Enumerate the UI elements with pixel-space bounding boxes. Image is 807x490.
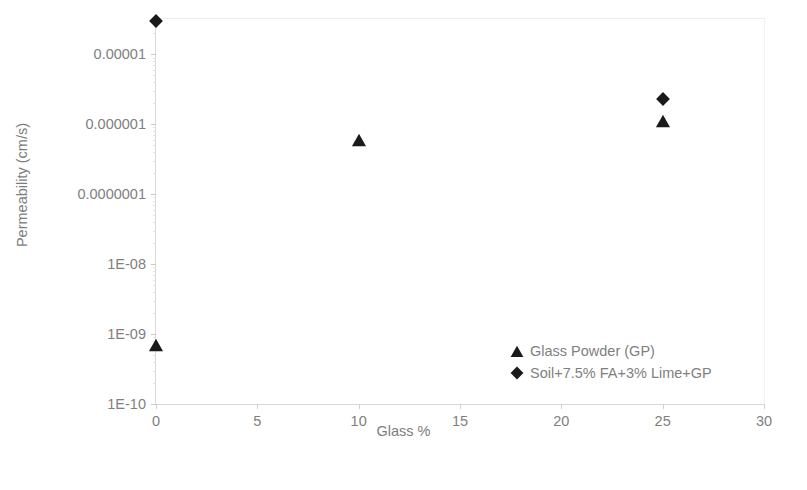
y-axis-minor-tick (153, 65, 156, 66)
y-axis-minor-tick (153, 355, 156, 356)
y-axis-tick-label: 1E-10 (107, 396, 146, 412)
legend-item-label: Soil+7.5% FA+3% Lime+GP (528, 365, 712, 381)
y-axis-minor-tick (153, 271, 156, 272)
y-axis-minor-tick (153, 222, 156, 223)
y-axis-minor-tick (153, 292, 156, 293)
y-axis-minor-tick (153, 231, 156, 232)
legend-item[interactable]: Soil+7.5% FA+3% Lime+GP (510, 362, 712, 384)
diamond-data-point-marker (655, 91, 670, 106)
x-axis-tick-mark (561, 404, 562, 409)
y-axis-minor-tick (153, 140, 156, 141)
y-axis-minor-tick (153, 145, 156, 146)
y-axis-minor-tick (153, 135, 156, 136)
y-axis-tick-mark (151, 124, 156, 125)
y-axis-tick-label: 1E-09 (107, 326, 146, 342)
y-axis-minor-tick (153, 275, 156, 276)
y-axis-minor-tick (153, 201, 156, 202)
y-axis-minor-tick (153, 173, 156, 174)
y-axis-minor-tick (153, 61, 156, 62)
x-axis-tick-mark (156, 404, 157, 409)
y-axis-minor-tick (153, 362, 156, 363)
y-axis-minor-tick (153, 285, 156, 286)
x-axis-tick-mark (460, 404, 461, 409)
y-axis-minor-tick (153, 371, 156, 372)
y-axis-minor-tick (153, 313, 156, 314)
y-axis-minor-tick (153, 205, 156, 206)
y-axis-minor-tick (153, 75, 156, 76)
y-axis-tick-label: 1E-08 (107, 256, 146, 272)
triangle-data-point-marker (655, 114, 670, 128)
y-axis-minor-tick (153, 161, 156, 162)
y-axis-minor-tick (153, 383, 156, 384)
y-axis-minor-tick (153, 267, 156, 268)
x-axis-title: Glass % (0, 423, 807, 439)
triangle-data-point-marker (149, 338, 164, 352)
diamond-marker-icon (510, 366, 528, 380)
chart-legend: Glass Powder (GP)Soil+7.5% FA+3% Lime+GP (510, 340, 712, 384)
legend-item-label: Glass Powder (GP) (528, 343, 655, 359)
y-axis-tick-mark (151, 334, 156, 335)
y-axis-minor-tick (153, 70, 156, 71)
y-axis-minor-tick (153, 152, 156, 153)
x-axis-tick-mark (257, 404, 258, 409)
x-axis-tick-mark (764, 404, 765, 409)
y-axis-tick-mark (151, 194, 156, 195)
permeability-vs-glass-percent-chart: 0.000010.0000010.00000011E-081E-091E-100… (0, 0, 807, 490)
x-axis-tick-mark (359, 404, 360, 409)
legend-item[interactable]: Glass Powder (GP) (510, 340, 712, 362)
y-axis-minor-tick (153, 280, 156, 281)
diamond-data-point-marker (149, 13, 164, 28)
y-axis-minor-tick (153, 210, 156, 211)
y-axis-minor-tick (153, 103, 156, 104)
y-axis-minor-tick (153, 131, 156, 132)
y-axis-tick-mark (151, 264, 156, 265)
y-axis-minor-tick (153, 243, 156, 244)
y-axis-minor-tick (153, 82, 156, 83)
y-axis-minor-tick (153, 301, 156, 302)
y-axis-tick-mark (151, 54, 156, 55)
triangle-data-point-marker (351, 133, 366, 147)
x-axis-tick-mark (663, 404, 664, 409)
y-axis-minor-tick (153, 197, 156, 198)
y-axis-minor-tick (153, 33, 156, 34)
y-axis-tick-label: 0.000001 (86, 116, 146, 132)
y-axis-tick-label: 0.00001 (94, 46, 146, 62)
y-axis-tick-label: 0.0000001 (77, 186, 146, 202)
y-axis-minor-tick (153, 127, 156, 128)
y-axis-minor-tick (153, 58, 156, 59)
y-axis-minor-tick (153, 91, 156, 92)
y-axis-minor-tick (153, 215, 156, 216)
triangle-marker-icon (510, 345, 528, 358)
y-axis-title: Permeability (cm/s) (14, 0, 30, 385)
